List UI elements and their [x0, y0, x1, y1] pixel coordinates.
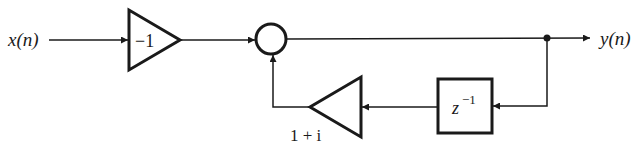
feedback-gain-block: 1 + i [290, 77, 361, 145]
feedback-to-adder-arrow [273, 55, 310, 107]
forward-gain-block: −1 [129, 10, 180, 70]
block-diagram: x(n) −1 y(n) z −1 1 + i [0, 0, 644, 157]
delay-base: z [451, 98, 459, 118]
feedback-to-delay-arrow [493, 38, 547, 106]
delay-block: z −1 [438, 79, 492, 133]
output-label: y(n) [598, 28, 631, 50]
forward-gain-label: −1 [135, 31, 154, 51]
feedback-gain-label: 1 + i [290, 126, 322, 145]
adder-circle-icon [256, 24, 286, 54]
input-label: x(n) [7, 29, 39, 51]
delay-exponent: −1 [462, 92, 476, 107]
